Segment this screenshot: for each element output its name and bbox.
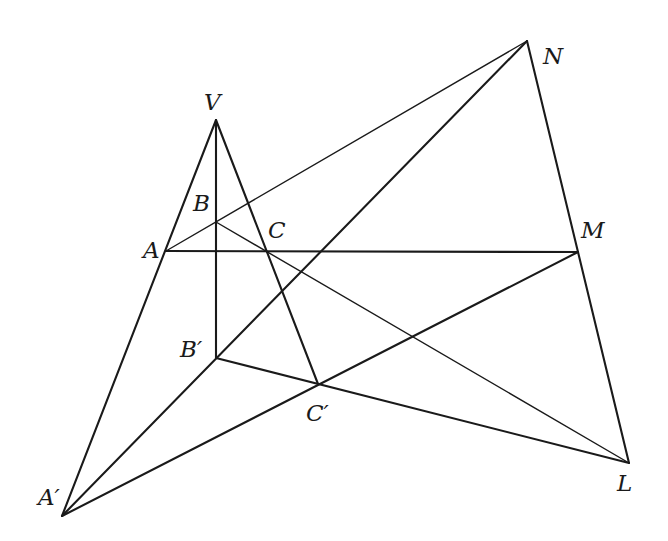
point-label-a-prime: A′ <box>36 484 61 510</box>
point-label-m: M <box>580 217 606 243</box>
segment-bp-l <box>216 358 629 463</box>
segment-a-n <box>166 41 527 251</box>
segment-ap-n <box>62 41 527 516</box>
point-label-v: V <box>204 89 223 115</box>
point-label-a: A <box>141 237 160 263</box>
point-label-n: N <box>542 43 564 69</box>
line-segments <box>62 41 629 516</box>
segment-a-m <box>166 251 578 252</box>
segment-v-ap <box>62 120 216 516</box>
point-label-b: B <box>192 190 210 216</box>
desargues-diagram: VABCA′B′C′LMN <box>0 0 668 541</box>
point-label-b-prime: B′ <box>179 336 203 362</box>
point-label-l: L <box>616 470 632 496</box>
point-label-c: C <box>268 217 286 243</box>
point-label-c-prime: C′ <box>306 400 330 426</box>
point-labels: VABCA′B′C′LMN <box>36 43 632 510</box>
